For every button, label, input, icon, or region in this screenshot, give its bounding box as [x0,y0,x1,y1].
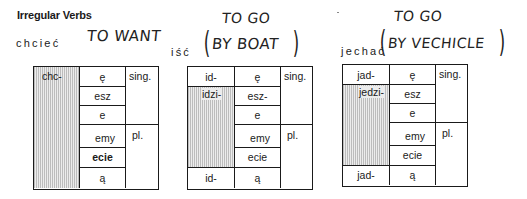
number-singular: sing. [284,70,306,82]
handwritten-annotation-to-go: TO GO [393,9,443,23]
ending-2pl: ecie [235,147,280,167]
number-plural: pl. [132,129,143,141]
number-singular: sing. [129,70,151,82]
divider [234,124,313,125]
number-plural: pl. [287,129,298,141]
paren-open: ( [204,28,210,58]
ending-3pl: ą [390,165,435,185]
stem-chc: chc- [42,70,62,82]
ending-2sg: esz [390,84,435,103]
verb-label-isc: iść [171,46,191,58]
speck [337,12,339,13]
ending-1pl: emy [235,127,285,148]
conjugation-table-chciec: chc- ę esz e emy ecie ą sing. pl. [33,66,159,190]
ending-3sg: e [390,103,435,122]
conjugation-table-isc: id- idzi- id- ę esz- e emy ecie ą sing. … [187,66,313,190]
ending-1sg: ę [80,67,125,86]
number-plural: pl. [442,127,453,139]
stem-id-top: id- [188,67,234,86]
paren-open: ( [380,27,386,57]
ending-2pl: ecie [80,147,125,167]
ending-1pl: emy [390,125,440,146]
handwritten-annotation-to-go: TO GO [221,11,271,25]
ending-1sg: ę [235,67,280,86]
handwritten-annotation-by-boat: BY BOAT [211,37,279,52]
ending-3pl: ą [235,167,280,188]
stem-id-bottom: id- [188,167,234,188]
ending-3pl: ą [80,167,125,188]
divider [79,124,158,125]
ending-2sg: esz [80,86,125,105]
page-heading: Irregular Verbs [17,9,92,21]
divider [389,122,468,123]
stem-jedzi: jedzi- [359,86,384,98]
number-singular: sing. [439,68,461,80]
ending-1sg: ę [390,65,435,84]
ending-2pl: ecie [390,145,435,165]
paren-close: ) [293,28,299,58]
ending-3sg: e [80,105,125,124]
handwritten-annotation-to-want: TO WANT [86,29,161,44]
stem-column-hatched [34,67,79,188]
stem-idzi: idzi- [202,88,221,100]
ending-2sg: esz- [235,86,280,105]
stem-jad-bottom: jad- [343,165,389,185]
conjugation-table-jechac: jad- jedzi- jad- ę esz e emy ecie ą sing… [342,64,468,187]
paren-close: ) [499,27,505,57]
ending-3sg: e [235,105,280,124]
verb-label-chciec: chcieć [16,37,60,49]
handwritten-annotation-by-vehicle: BY VECHICLE [387,36,485,50]
ending-1pl: emy [80,127,130,148]
stem-jad-top: jad- [343,65,389,84]
